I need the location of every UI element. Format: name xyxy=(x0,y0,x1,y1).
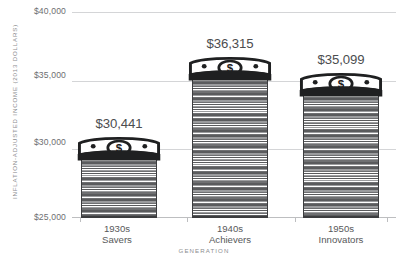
x-tick-0 xyxy=(80,218,81,222)
x-category-label-1950s-line1: 1950s xyxy=(328,223,354,234)
bar-base-edge-1930s xyxy=(82,216,156,218)
x-tick-3 xyxy=(387,218,388,222)
x-category-label-1940s-line1: 1940s xyxy=(217,223,243,234)
bar-value-1940s: $36,315 xyxy=(172,36,288,51)
x-category-label-1930s-line1: 1930s xyxy=(104,223,130,234)
bar-base-edge-1940s xyxy=(193,216,267,218)
bar-chart: INFLATION-ADJUSTED INCOME (2013 DOLLARS)… xyxy=(0,0,408,263)
bar-value-1930s: $30,441 xyxy=(61,116,177,131)
y-tick-label-25000: $25,000 xyxy=(4,212,66,222)
x-category-label-1950s-line2: Innovators xyxy=(292,234,390,245)
y-tick-label-35000: $35,000 xyxy=(4,70,66,80)
x-category-label-1940s-line2: Achievers xyxy=(181,234,279,245)
bar-stack-1930s xyxy=(81,157,157,218)
bar-1950s-innovators: $ $35,099 xyxy=(303,80,379,218)
bar-value-1950s: $35,099 xyxy=(283,52,399,67)
gridline-40000 xyxy=(72,12,396,13)
x-axis-title: GENERATION xyxy=(0,247,408,254)
bar-base-edge-1950s xyxy=(304,216,378,218)
x-tick-2 xyxy=(295,218,296,222)
dollar-bill-icon: $ xyxy=(298,72,384,98)
bar-stack-1950s xyxy=(303,93,379,218)
bar-1940s-achievers: $ $36,315 xyxy=(192,64,268,218)
y-tick-label-40000: $40,000 xyxy=(4,6,66,16)
bar-1930s-savers: $ $30,441 xyxy=(81,144,157,218)
dollar-bill-icon: $ xyxy=(187,56,273,82)
x-category-label-1940s: 1940s Achievers xyxy=(181,223,279,246)
x-category-label-1930s: 1930s Savers xyxy=(68,223,166,246)
y-tick-label-30000: $30,000 xyxy=(4,137,66,147)
dollar-bill-icon: $ xyxy=(76,136,162,162)
x-category-label-1950s: 1950s Innovators xyxy=(292,223,390,246)
y-axis-title: INFLATION-ADJUSTED INCOME (2013 DOLLARS) xyxy=(11,12,18,212)
x-category-label-1930s-line2: Savers xyxy=(68,234,166,245)
bar-stack-1940s xyxy=(192,77,268,218)
x-tick-1 xyxy=(187,218,188,222)
plot-area: $ $30,441 $ xyxy=(72,12,396,218)
